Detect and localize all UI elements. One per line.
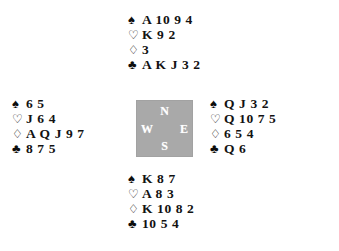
- hand-south-hearts-row: ♡ A 8 3: [128, 186, 194, 201]
- hand-east-clubs-row: ♣ Q 6: [210, 141, 276, 156]
- hand-east-spades: Q J 3 2: [223, 96, 269, 111]
- hand-south-spades: K 8 7: [141, 171, 176, 186]
- hand-east-spades-row: ♠ Q J 3 2: [210, 96, 276, 111]
- hand-north-hearts: K 9 2: [141, 27, 176, 42]
- diamond-icon: ♢: [128, 43, 141, 58]
- hand-north-clubs: A K J 3 2: [141, 57, 201, 72]
- hand-south-clubs-row: ♣ 10 5 4: [128, 216, 194, 231]
- spade-icon: ♠: [210, 96, 223, 111]
- heart-icon: ♡: [128, 187, 141, 202]
- hand-north-diamonds-row: ♢ 3: [128, 42, 201, 57]
- compass-label-west: W: [141, 123, 153, 135]
- compass-label-east: E: [180, 123, 188, 135]
- heart-icon: ♡: [12, 112, 25, 127]
- club-icon: ♣: [210, 141, 223, 156]
- hand-west: ♠ 6 5 ♡ J 6 4 ♢ A Q J 9 7 ♣ 8 7 5: [12, 96, 85, 156]
- diamond-icon: ♢: [12, 127, 25, 142]
- hand-south-diamonds-row: ♢ K 10 8 2: [128, 201, 194, 216]
- hand-east-clubs: Q 6: [223, 141, 246, 156]
- hand-north-hearts-row: ♡ K 9 2: [128, 27, 201, 42]
- spade-icon: ♠: [12, 96, 25, 111]
- diamond-icon: ♢: [210, 127, 223, 142]
- hand-west-clubs: 8 7 5: [25, 141, 56, 156]
- hand-north-diamonds: 3: [141, 42, 149, 57]
- hand-north-spades-row: ♠ A 10 9 4: [128, 12, 201, 27]
- hand-west-diamonds: A Q J 9 7: [25, 126, 85, 141]
- hand-west-spades: 6 5: [25, 96, 45, 111]
- heart-icon: ♡: [210, 112, 223, 127]
- hand-west-clubs-row: ♣ 8 7 5: [12, 141, 85, 156]
- hand-north-spades: A 10 9 4: [141, 12, 193, 27]
- hand-east-hearts: Q 10 7 5: [223, 111, 276, 126]
- hand-south-diamonds: K 10 8 2: [141, 201, 194, 216]
- compass-label-south: S: [161, 140, 168, 152]
- hand-east: ♠ Q J 3 2 ♡ Q 10 7 5 ♢ 6 5 4 ♣ Q 6: [210, 96, 276, 156]
- hand-east-diamonds: 6 5 4: [223, 126, 254, 141]
- spade-icon: ♠: [128, 12, 141, 27]
- spade-icon: ♠: [128, 171, 141, 186]
- hand-south-hearts: A 8 3: [141, 186, 174, 201]
- hand-north: ♠ A 10 9 4 ♡ K 9 2 ♢ 3 ♣ A K J 3 2: [128, 12, 201, 72]
- bridge-hand-diagram: ♠ A 10 9 4 ♡ K 9 2 ♢ 3 ♣ A K J 3 2 ♠ 6 5…: [0, 0, 339, 251]
- hand-west-hearts: J 6 4: [25, 111, 56, 126]
- diamond-icon: ♢: [128, 202, 141, 217]
- hand-east-diamonds-row: ♢ 6 5 4: [210, 126, 276, 141]
- hand-north-clubs-row: ♣ A K J 3 2: [128, 57, 201, 72]
- club-icon: ♣: [128, 216, 141, 231]
- hand-south-spades-row: ♠ K 8 7: [128, 171, 194, 186]
- hand-south-clubs: 10 5 4: [141, 216, 179, 231]
- hand-south: ♠ K 8 7 ♡ A 8 3 ♢ K 10 8 2 ♣ 10 5 4: [128, 171, 194, 231]
- compass-box: N W E S: [136, 100, 193, 157]
- club-icon: ♣: [12, 141, 25, 156]
- hand-west-hearts-row: ♡ J 6 4: [12, 111, 85, 126]
- hand-west-diamonds-row: ♢ A Q J 9 7: [12, 126, 85, 141]
- hand-east-hearts-row: ♡ Q 10 7 5: [210, 111, 276, 126]
- compass-label-north: N: [160, 105, 169, 117]
- club-icon: ♣: [128, 57, 141, 72]
- heart-icon: ♡: [128, 28, 141, 43]
- hand-west-spades-row: ♠ 6 5: [12, 96, 85, 111]
